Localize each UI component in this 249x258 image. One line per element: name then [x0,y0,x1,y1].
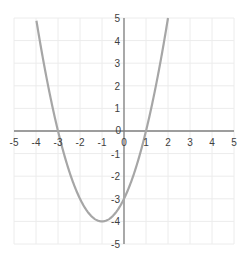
x-tick-label: -3 [54,137,63,148]
x-tick-label: -4 [32,137,41,148]
x-tick-label: 2 [165,137,171,148]
y-tick-label: -4 [111,216,120,227]
y-tick-label: 3 [114,58,120,69]
y-tick-label: 2 [114,81,120,92]
x-tick-label: 4 [209,137,215,148]
x-tick-label: -5 [10,137,19,148]
y-tick-label: 1 [114,103,120,114]
y-tick-label: 4 [114,36,120,47]
axes [14,18,234,244]
y-tick-label: 5 [114,13,120,24]
x-tick-label: -1 [98,137,107,148]
y-tick-label: -3 [111,194,120,205]
y-tick-label: -5 [111,239,120,250]
x-tick-label: 5 [231,137,237,148]
y-tick-label: -2 [111,171,120,182]
y-tick-label: 0 [115,125,121,136]
x-tick-label: 1 [143,137,149,148]
y-tick-label: -1 [111,149,120,160]
x-tick-label: -2 [76,137,85,148]
x-tick-label: 3 [187,137,193,148]
x-tick-label: 0 [121,137,127,148]
function-plot: -5-4-3-2-1012345 -5-4-3-2-1012345 [0,0,249,258]
x-tick-labels: -5-4-3-2-1012345 [10,137,238,148]
